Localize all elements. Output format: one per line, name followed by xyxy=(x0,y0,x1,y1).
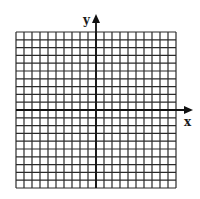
y-axis-arrow-icon xyxy=(92,14,100,23)
y-axis-label: y xyxy=(82,13,91,27)
coordinate-grid-diagram: x y xyxy=(0,0,200,199)
x-axis-arrow-icon xyxy=(184,106,193,114)
x-axis-label: x xyxy=(184,115,192,129)
